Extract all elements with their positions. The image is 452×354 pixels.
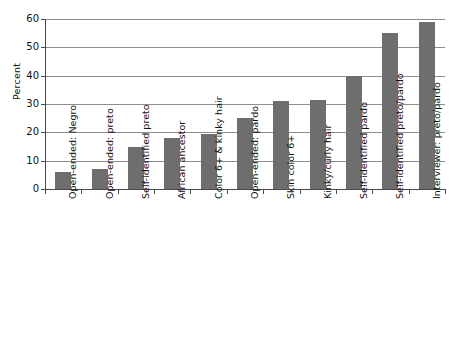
y-tick-mark-30 [41, 104, 45, 105]
x-tick-mark-3 [154, 190, 155, 194]
x-tick-label: Interviewer: preto/pardo [431, 82, 442, 199]
x-tick-label: Open-ended: pardo [249, 106, 260, 199]
gridline-60 [45, 19, 445, 20]
x-tick-label: Self-identified pardo [358, 102, 369, 199]
x-tick-mark-0 [45, 190, 46, 194]
y-axis-spine [45, 19, 46, 190]
y-tick-label-20: 20 [14, 127, 39, 137]
x-tick-label: Open-ended: preto [104, 108, 115, 199]
y-tick-label-50: 50 [14, 42, 39, 52]
x-tick-mark-6 [263, 190, 264, 194]
x-tick-label: Self-identified preto [140, 104, 151, 199]
x-tick-label: Self-identified preto/pardo [394, 73, 405, 199]
x-tick-label: Color 6+ & kinky hair [213, 96, 224, 199]
x-tick-label: Kinky/curly hair [322, 125, 333, 200]
y-tick-mark-60 [41, 19, 45, 20]
y-tick-mark-50 [41, 47, 45, 48]
y-tick-mark-10 [41, 161, 45, 162]
bar-chart-figure: Percent 0102030405060 Open-ended: NegroO… [0, 0, 452, 354]
x-tick-mark-4 [190, 190, 191, 194]
y-tick-label-30: 30 [14, 99, 39, 109]
y-tick-label-10: 10 [14, 156, 39, 166]
x-tick-mark-9 [372, 190, 373, 194]
x-tick-mark-7 [300, 190, 301, 194]
x-tick-mark-2 [118, 190, 119, 194]
x-tick-mark-10 [409, 190, 410, 194]
x-tick-mark-5 [227, 190, 228, 194]
x-tick-label: Open-ended: Negro [67, 105, 78, 199]
x-tick-label: Skin color 6+ [285, 135, 296, 199]
y-tick-mark-40 [41, 76, 45, 77]
x-tick-mark-8 [336, 190, 337, 194]
x-tick-mark-1 [81, 190, 82, 194]
y-tick-label-0: 0 [14, 184, 39, 194]
y-tick-mark-20 [41, 132, 45, 133]
x-tick-mark-11 [445, 190, 446, 194]
x-tick-label: African ancestor [176, 121, 187, 199]
y-tick-label-60: 60 [14, 14, 39, 24]
y-tick-label-40: 40 [14, 71, 39, 81]
